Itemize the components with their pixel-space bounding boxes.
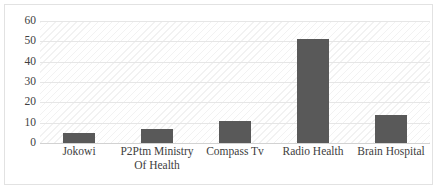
y-axis: 0102030405060 [5,21,36,143]
bar[interactable] [297,39,329,143]
bar-slot [274,21,352,143]
bar[interactable] [63,133,95,143]
x-axis: JokowiP2Ptm Ministry Of HealthCompass Tv… [40,145,430,183]
x-axis-category-label: Compass Tv [196,145,274,159]
bar-slot [196,21,274,143]
y-axis-tick-label: 50 [25,36,37,48]
x-axis-category-label: Jokowi [40,145,118,159]
gridline [40,143,430,144]
y-axis-tick-label: 10 [25,117,37,129]
bar[interactable] [141,129,173,143]
y-axis-tick-label: 60 [25,15,37,27]
y-axis-tick-label: 30 [25,76,37,88]
x-axis-category-label: Radio Health [274,145,352,159]
bar-slot [118,21,196,143]
y-axis-tick-label: 0 [30,137,36,149]
x-axis-category-label: P2Ptm Ministry Of Health [118,145,196,172]
bar[interactable] [375,115,407,143]
bar-slot [40,21,118,143]
x-axis-category-label: Brain Hospital [352,145,430,159]
bar-series [40,21,430,143]
chart-container: 0102030405060 JokowiP2Ptm Ministry Of He… [4,4,433,185]
y-axis-tick-label: 40 [25,56,37,68]
bar[interactable] [219,121,251,143]
bar-slot [352,21,430,143]
y-axis-tick-label: 20 [25,97,37,109]
